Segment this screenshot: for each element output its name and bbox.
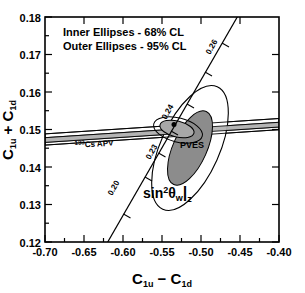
y-tick-label: 0.14 [20,162,42,174]
scatter-plot-svg: 0.18 0.17 0.16 0.15 0.14 0.13 0.12 -0.70… [0,0,305,293]
x-axis-title-sub2: 1d [181,279,192,289]
x-tick-label: -0.45 [227,246,252,258]
figure-container: 0.18 0.17 0.16 0.15 0.14 0.13 0.12 -0.70… [0,0,305,293]
x-axis-title-minus: − [158,270,167,287]
x-tick-label: -0.50 [188,246,213,258]
y-axis-title-sub2: 1d [8,100,18,111]
x-tick-label: -0.60 [110,246,135,258]
x-tick-label: -0.40 [266,246,291,258]
y-axis-title-c1: C [0,149,16,160]
y-tick-label: 0.13 [20,199,41,211]
sin-theta: θ [168,185,176,201]
x-tick-label: -0.55 [149,246,174,258]
y-axis-title-sub1: 1u [8,139,18,150]
best-fit-point [172,122,177,127]
x-tick-label: -0.65 [71,246,96,258]
x-axis-title-c1: C [132,270,143,287]
legend-line-1: Inner Ellipses - 68% CL [63,26,184,38]
y-axis-title-c2: C [0,110,16,121]
sin-subscript-z: z [187,194,192,204]
x-axis-title-sub1: 1u [143,279,154,289]
y-axis-title-plus: + [0,125,16,134]
sin-base: sin [143,185,163,201]
y-tick-label: 0.17 [20,49,41,61]
y-tick-label: 0.18 [20,12,41,24]
x-tick-label: -0.70 [32,246,57,258]
y-tick-label: 0.15 [20,124,41,136]
x-axis-title-c2: C [171,270,182,287]
legend-line-2: Outer Ellipses - 95% CL [63,40,187,52]
y-tick-label: 0.16 [20,87,41,99]
pves-ellipse-label: PVES [180,140,204,150]
